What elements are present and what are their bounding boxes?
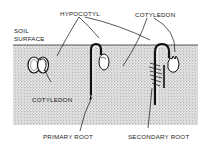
label-primary-root: PRIMARY ROOT — [43, 133, 93, 140]
label-hypocotyl: HYPOCOTYL — [60, 10, 100, 17]
label-cotyledon-bottom: COTYLEDON — [32, 96, 72, 103]
label-surface: SURFACE — [14, 35, 45, 42]
label-cotyledon-top: COTYLEDON — [135, 11, 175, 18]
label-soil: SOIL — [14, 27, 29, 34]
seedling-diagram — [0, 0, 214, 147]
label-secondary-root: SECONDARY ROOT — [128, 133, 189, 140]
